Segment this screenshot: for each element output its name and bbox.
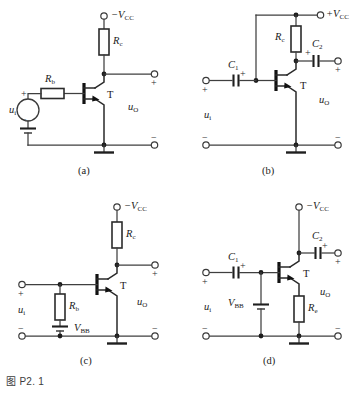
circuit-schematics-svg <box>0 0 354 399</box>
input-plus-sign-d: + <box>202 277 208 287</box>
output-label-c: uO <box>137 297 147 308</box>
resistor-rc-label-b: Rc <box>275 32 285 43</box>
resistor-rb-label-a: Rb <box>45 74 55 85</box>
battery-vbb-label-c: VBB <box>74 323 90 334</box>
output-label-d: uO <box>320 287 330 298</box>
sub-caption-c: (c) <box>80 356 92 367</box>
output-minus-sign-d: − <box>335 324 341 334</box>
circuit-a-graphics <box>17 13 158 153</box>
figure-caption: 图 P2. 1 <box>6 377 44 387</box>
capacitor-c2-plus-sign-b: + <box>305 48 311 58</box>
lead-a-collector <box>95 74 104 88</box>
input-plus-sign-c: + <box>18 289 24 299</box>
node-d-ground-left <box>259 334 264 339</box>
transistor-label-b: T <box>300 81 306 92</box>
lead-b-emitter <box>276 86 296 145</box>
output-minus-sign-a: − <box>151 133 157 143</box>
resistor-rc-b <box>291 26 301 52</box>
lead-d-emitter <box>279 278 299 296</box>
figure-container: −VCC Rc Rb ui uO T + − + − (a) +VCC Rc C… <box>0 0 354 399</box>
lead-b-collector <box>287 61 296 75</box>
input-label-d: ui <box>204 302 211 313</box>
capacitor-c2-label-b: C2 <box>312 39 323 50</box>
output-plus-sign-c: + <box>152 269 158 279</box>
capacitor-c1-label-d: C1 <box>228 252 239 263</box>
lead-c-collector <box>108 265 117 279</box>
resistor-rc-label-a: Rc <box>113 36 123 47</box>
supply-terminal-d <box>296 204 302 210</box>
sub-caption-a: (a) <box>78 166 90 177</box>
input-minus-sign-d: − <box>202 324 208 334</box>
supply-label-c: −VCC <box>124 201 147 212</box>
input-terminal-plus-d <box>203 269 209 275</box>
input-terminal-plus-c <box>19 281 25 287</box>
output-minus-sign-b: − <box>335 133 341 143</box>
lead-d-collector <box>290 253 299 267</box>
capacitor-c2-label-d: C2 <box>312 231 323 242</box>
input-label-b: ui <box>204 110 211 121</box>
input-label-c: ui <box>18 305 25 316</box>
transistor-label-a: T <box>107 90 113 101</box>
source-minus-sign-a: − <box>21 115 27 125</box>
lead-a-emitter <box>84 99 104 145</box>
capacitor-c2-plus-sign-d: + <box>322 241 328 251</box>
lead-c-emitter <box>97 290 117 336</box>
input-plus-sign-b: + <box>202 85 208 95</box>
input-minus-sign-b: − <box>202 133 208 143</box>
resistor-rc-c <box>112 222 122 248</box>
circuit-d-graphics <box>203 204 341 344</box>
input-minus-sign-c: − <box>18 324 24 334</box>
output-plus-sign-d: + <box>335 257 341 267</box>
output-minus-sign-c: − <box>152 324 158 334</box>
resistor-re-label-d: Re <box>308 303 318 314</box>
supply-terminal-b <box>317 12 323 18</box>
supply-terminal-c <box>114 204 120 210</box>
node-c-ground-left <box>58 334 63 339</box>
circuit-b-graphics <box>203 12 341 153</box>
resistor-rc-label-c: Rc <box>126 229 136 240</box>
resistor-rc-a <box>99 29 109 55</box>
sub-caption-b: (b) <box>262 166 274 177</box>
supply-label-d: −VCC <box>306 201 329 212</box>
input-terminal-plus-b <box>203 77 209 83</box>
resistor-rb-c <box>55 294 65 320</box>
resistor-rb-label-c: Rb <box>69 301 79 312</box>
resistor-rb-a <box>41 89 64 99</box>
transistor-label-c: T <box>120 281 126 292</box>
output-label-a: uO <box>128 102 138 113</box>
wire-a-rb-source <box>28 94 41 100</box>
supply-label-a: −VCC <box>111 10 134 21</box>
output-plus-sign-b: + <box>335 65 341 75</box>
capacitor-c1-plus-sign-d: + <box>240 261 246 271</box>
resistor-re-d <box>294 296 304 322</box>
output-plus-sign-a: + <box>151 78 157 88</box>
capacitor-c1-plus-sign-b: + <box>240 69 246 79</box>
source-plus-sign-a: + <box>21 89 27 99</box>
sub-caption-d: (d) <box>263 356 275 367</box>
supply-label-b: +VCC <box>326 9 349 20</box>
supply-terminal-a <box>101 13 107 19</box>
capacitor-c1-label-b: C1 <box>228 60 239 71</box>
transistor-label-d: T <box>303 269 309 280</box>
battery-vbb-label-d: VBB <box>228 298 244 309</box>
output-label-b: uO <box>319 95 329 106</box>
input-label-a: ui <box>9 105 16 116</box>
